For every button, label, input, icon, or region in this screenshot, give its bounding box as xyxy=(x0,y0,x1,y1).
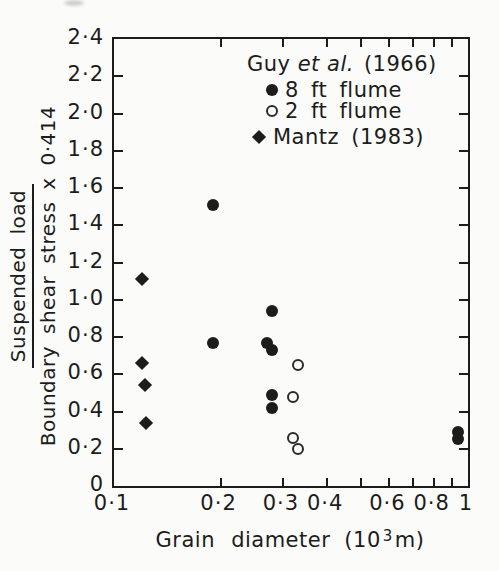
y-axis-tick xyxy=(114,448,123,450)
x-axis-tick xyxy=(220,478,222,486)
data-point xyxy=(139,416,153,430)
x-axis-tick-top xyxy=(360,39,362,47)
y-axis-tick xyxy=(114,113,123,115)
data-point xyxy=(266,305,278,317)
y-axis-tick xyxy=(114,373,123,375)
y-axis-tick xyxy=(114,224,123,226)
y-tick-label: 2·0 xyxy=(54,101,104,123)
y-axis-title-numerator: Suspended load xyxy=(5,184,34,368)
y-axis-tick xyxy=(114,411,123,413)
y-axis-tick-right xyxy=(459,113,468,115)
x-axis-title: Grain diameter(103m) xyxy=(120,527,460,552)
legend-item-label: Mantz (1983) xyxy=(273,125,424,149)
y-axis-tick-right xyxy=(459,224,468,226)
scan-artifact xyxy=(64,0,84,6)
y-axis-tick-right xyxy=(459,75,468,77)
x-axis-tick-top xyxy=(220,39,222,47)
y-axis-tick xyxy=(114,150,123,152)
scatter-chart-figure: Suspended load Boundary shear stress x 0… xyxy=(0,0,499,571)
data-point xyxy=(292,443,304,455)
y-axis-tick-right xyxy=(459,448,468,450)
y-tick-label: 2·2 xyxy=(54,63,104,85)
y-axis-tick-right xyxy=(459,411,468,413)
x-axis-tick-top xyxy=(412,39,414,47)
data-point xyxy=(207,337,219,349)
x-axis-tick-top xyxy=(326,39,328,47)
y-axis-tick xyxy=(114,262,123,264)
y-axis-tick-right xyxy=(459,299,468,301)
y-axis-tick xyxy=(114,75,123,77)
y-axis-tick xyxy=(114,187,123,189)
y-tick-label: 0·8 xyxy=(54,324,104,346)
legend-title-italic: et al. xyxy=(298,52,354,76)
x-axis-tick xyxy=(388,478,390,486)
data-point xyxy=(207,199,219,211)
x-axis-tick-top xyxy=(282,39,284,47)
legend-group-title: Guy et al.(1966) xyxy=(247,52,437,76)
open-circle-icon xyxy=(266,105,278,117)
data-point xyxy=(292,359,304,371)
data-point xyxy=(266,344,278,356)
data-point xyxy=(266,402,278,414)
legend-item-8-ft-flume: 8 ft flume xyxy=(266,79,402,101)
y-tick-label: 2·4 xyxy=(54,26,104,48)
y-tick-label: 1·2 xyxy=(54,250,104,272)
x-axis-tick xyxy=(433,478,435,486)
y-axis-tick-right xyxy=(459,262,468,264)
x-axis-tick xyxy=(282,478,284,486)
data-point xyxy=(137,378,151,392)
x-axis-tick-top xyxy=(433,39,435,47)
data-point xyxy=(135,272,149,286)
y-tick-label: 0·4 xyxy=(54,399,104,421)
x-axis-title-text: Grain diameter xyxy=(156,528,331,552)
filled-circle-icon xyxy=(266,84,278,96)
legend-item-2-ft-flume: 2 ft flume xyxy=(266,100,402,122)
x-axis-tick xyxy=(326,478,328,486)
y-tick-label: 1·6 xyxy=(54,175,104,197)
y-tick-label: 1·8 xyxy=(54,138,104,160)
legend-item-mantz-1983-: Mantz (1983) xyxy=(252,126,424,148)
x-axis-tick xyxy=(360,478,362,486)
y-tick-label: 0·2 xyxy=(54,436,104,458)
y-axis-tick xyxy=(114,336,123,338)
y-axis-title: Suspended load Boundary shear stress x 0… xyxy=(5,86,61,466)
x-tick-label: 0·1 xyxy=(80,492,144,514)
y-tick-label: 1·0 xyxy=(54,287,104,309)
y-axis-tick-right xyxy=(459,336,468,338)
y-axis-tick-right xyxy=(459,150,468,152)
data-point xyxy=(287,391,299,403)
x-axis-tick-top xyxy=(451,39,453,47)
data-point xyxy=(266,389,278,401)
data-point xyxy=(135,356,149,370)
x-axis-unit-exponent: 3 xyxy=(383,527,393,545)
x-axis-unit: (103m) xyxy=(344,528,424,552)
y-axis-tick-right xyxy=(459,373,468,375)
data-point xyxy=(452,433,464,445)
filled-diamond-icon xyxy=(252,130,266,144)
legend-item-label: 2 ft flume xyxy=(285,99,402,123)
x-axis-tick xyxy=(451,478,453,486)
x-tick-label: 0·4 xyxy=(293,492,357,514)
y-tick-label: 0·6 xyxy=(54,361,104,383)
x-tick-label: 0·2 xyxy=(187,492,251,514)
x-axis-tick-top xyxy=(388,39,390,47)
y-tick-label: 1·4 xyxy=(54,212,104,234)
x-tick-label: 1 xyxy=(434,492,498,514)
y-axis-tick xyxy=(114,299,123,301)
y-axis-tick-right xyxy=(459,187,468,189)
data-point xyxy=(287,432,299,444)
x-axis-tick xyxy=(412,478,414,486)
